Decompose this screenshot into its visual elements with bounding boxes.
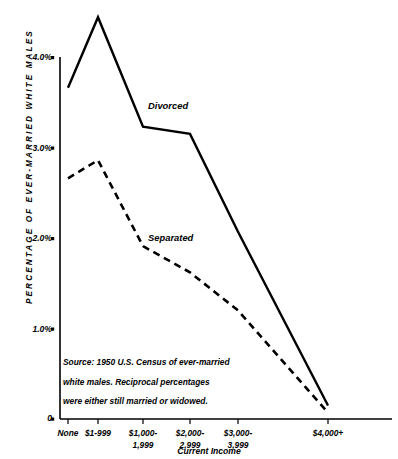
- y-tick-mark-0: [51, 418, 54, 421]
- source-note-line-3: were either still married or widowed.: [63, 392, 278, 412]
- source-note-line-2: white males. Reciprocal percentages: [63, 373, 278, 393]
- x-axis-title: Current Income: [149, 446, 269, 456]
- y-tick-mark-1: [51, 328, 54, 331]
- y-tick-mark-4: [51, 56, 54, 59]
- series-annotation-separated: Separated: [148, 232, 193, 243]
- series-line-divorced: [68, 17, 328, 405]
- y-axis-ticks: [51, 56, 54, 421]
- y-tick-mark-2: [51, 237, 54, 240]
- y-tick-mark-3: [51, 147, 54, 150]
- chart-figure: PERCENTAGE OF EVER-MARRIED WHITE MALES 0…: [0, 0, 398, 459]
- series-annotation-divorced: Divorced: [148, 100, 188, 111]
- x-axis-ticks: [68, 419, 328, 424]
- x-tick-label-4000-plus: $4,000+: [293, 427, 363, 439]
- source-note: Source: 1950 U.S. Census of ever-married…: [63, 353, 278, 412]
- source-note-line-1: Source: 1950 U.S. Census of ever-married: [63, 353, 278, 373]
